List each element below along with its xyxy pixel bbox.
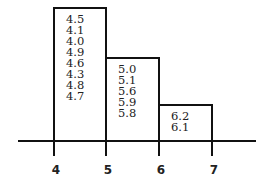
x-tick-label: 5 bbox=[98, 163, 118, 177]
bin-value: 4.7 bbox=[66, 91, 105, 102]
x-tick-label: 7 bbox=[204, 163, 224, 177]
histogram-chart: 4.5 4.1 4.0 4.9 4.6 4.3 4.8 4.7 5.0 5.1 … bbox=[0, 0, 268, 186]
bin-5-6: 5.0 5.1 5.6 5.9 5.8 bbox=[105, 57, 160, 141]
x-tick bbox=[53, 140, 55, 156]
x-tick bbox=[211, 140, 213, 156]
x-tick bbox=[158, 140, 160, 156]
bin-4-5: 4.5 4.1 4.0 4.9 4.6 4.3 4.8 4.7 bbox=[53, 7, 107, 141]
x-tick-label: 6 bbox=[151, 163, 171, 177]
x-tick bbox=[105, 140, 107, 156]
bin-value: 6.1 bbox=[171, 122, 211, 133]
bin-value: 5.8 bbox=[118, 108, 158, 119]
bin-6-7: 6.2 6.1 bbox=[158, 104, 213, 141]
x-tick-label: 4 bbox=[46, 163, 66, 177]
